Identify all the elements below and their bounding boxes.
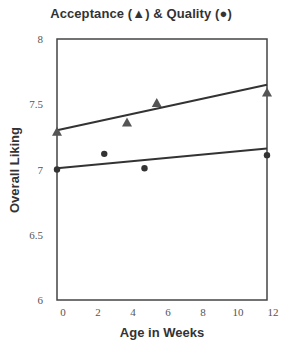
x-tick-label: 4 <box>130 306 136 318</box>
x-tick-label: 10 <box>233 306 245 318</box>
triangle-marker <box>262 88 272 97</box>
triangle-marker <box>52 127 62 136</box>
plot-area: 66.577.58024681012 <box>0 0 282 356</box>
y-tick-label: 7 <box>38 164 44 176</box>
x-tick-label: 0 <box>60 306 66 318</box>
x-tick-label: 2 <box>95 306 101 318</box>
triangle-marker <box>152 98 162 107</box>
plot-frame <box>57 39 267 300</box>
circle-marker <box>54 166 60 172</box>
y-tick-label: 6.5 <box>29 229 43 241</box>
x-tick-label: 12 <box>268 306 279 318</box>
x-tick-label: 8 <box>200 306 206 318</box>
circle-marker <box>101 151 107 157</box>
y-tick-label: 7.5 <box>29 98 43 110</box>
y-tick-label: 8 <box>38 33 44 45</box>
circle-marker <box>141 165 147 171</box>
y-tick-label: 6 <box>38 294 44 306</box>
quality-fit-line <box>57 149 267 169</box>
acceptance-fit-line <box>57 85 267 131</box>
x-tick-label: 6 <box>165 306 171 318</box>
triangle-marker <box>122 118 132 127</box>
circle-marker <box>264 152 270 158</box>
